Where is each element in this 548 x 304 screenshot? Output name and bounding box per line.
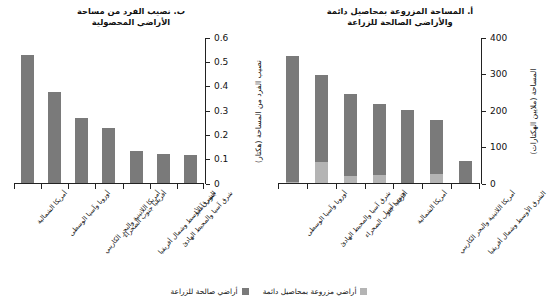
bar-segment-value <box>48 92 61 184</box>
bar-segment-arable <box>401 110 414 183</box>
panel-per-capita: ب. نصيب الفرد من مساحة الأراضي المحصولية <box>0 0 262 304</box>
category-label: أمريكا اللاتينية والبحر الكاريبي <box>457 190 517 255</box>
panel-right-axis-title-text: المساحة (ملايين الهكتارات) <box>529 68 538 154</box>
legend-label: أراضي مزروعة بمحاصيل دائمة <box>263 287 357 296</box>
panel-right-plot-area <box>278 38 480 184</box>
panel-left-title: ب. نصيب الفرد من مساحة الأراضي المحصولية <box>0 6 262 28</box>
y-tick-label: 0.6 <box>214 34 228 43</box>
category-label: أمريكا الشمالية <box>35 190 69 226</box>
bar-slot <box>278 38 307 184</box>
bar-segment-arable <box>373 104 386 175</box>
bar-slot <box>451 38 480 184</box>
bar-segment-value <box>21 55 34 184</box>
bar-left-3[interactable] <box>102 128 115 184</box>
legend-item-permanent[interactable]: أراضي مزروعة بمحاصيل دائمة <box>263 287 368 296</box>
category-label: أفريقيا جنوب الصحراء <box>123 190 169 240</box>
y-tick-label: 300 <box>490 70 507 79</box>
y-tick-label: 0 <box>214 180 220 189</box>
legend-swatch-icon <box>242 288 249 295</box>
panel-right-x-ticks <box>278 184 480 189</box>
bar-right-5[interactable] <box>430 120 443 184</box>
bar-slot <box>177 38 204 184</box>
bar-right-6[interactable] <box>459 161 472 184</box>
bar-right-4[interactable] <box>401 110 414 184</box>
bar-left-1[interactable] <box>48 92 61 184</box>
bar-slot <box>123 38 150 184</box>
bar-segment-value <box>75 118 88 184</box>
bar-right-3[interactable] <box>373 104 386 184</box>
y-tick-label: 0.4 <box>214 82 228 91</box>
y-tick-label: 0.1 <box>214 155 228 164</box>
panel-right-y-ticks: 0 100 200 300 400 <box>482 38 528 184</box>
category-label: أمريكا الشمالية <box>416 190 450 226</box>
panel-right-category-labels: أوروبا وآسيا الوسطى شرق آسيا والمحيط اله… <box>278 190 480 278</box>
bar-left-2[interactable] <box>75 118 88 184</box>
panel-left-plot-area <box>14 38 204 184</box>
chart-legend: أراضي صالحة للزراعة أراضي مزروعة بمحاصيل… <box>0 287 538 296</box>
bar-segment-value <box>184 155 197 184</box>
category-label: أوروبا وآسيا الوسطى <box>68 190 112 238</box>
bar-segment-arable <box>315 75 328 163</box>
panel-left-x-ticks <box>14 184 204 189</box>
panel-right-title: أ. المساحة المزروعة بمحاصيل دائمة والأرا… <box>262 6 538 28</box>
bar-right-0[interactable] <box>286 56 299 184</box>
bar-right-1[interactable] <box>315 75 328 184</box>
panel-left-bars <box>14 38 204 184</box>
panel-left-category-labels: أمريكا الشمالية أوروبا وآسيا الوسطى أمري… <box>14 190 204 278</box>
legend-item-arable[interactable]: أراضي صالحة للزراعة <box>171 287 249 296</box>
bar-slot <box>95 38 122 184</box>
bar-left-6[interactable] <box>184 155 197 184</box>
bar-segment-arable <box>459 161 472 184</box>
bar-segment-arable <box>344 94 357 176</box>
bar-left-5[interactable] <box>157 154 170 184</box>
bar-segment-permanent <box>315 162 328 184</box>
y-tick-label: 0.2 <box>214 131 228 140</box>
bar-segment-value <box>102 128 115 184</box>
bar-slot <box>150 38 177 184</box>
bar-slot <box>393 38 422 184</box>
y-tick-label: 0.5 <box>214 58 228 67</box>
bar-slot <box>336 38 365 184</box>
bar-right-2[interactable] <box>344 94 357 184</box>
bar-left-0[interactable] <box>21 55 34 184</box>
category-label: أوروبا وآسيا الوسطى <box>305 190 349 238</box>
category-label: الشرق الأوسط وشمال أفريقيا <box>487 190 548 256</box>
y-tick-label: 400 <box>490 34 507 43</box>
bar-slot <box>365 38 394 184</box>
panel-area: أ. المساحة المزروعة بمحاصيل دائمة والأرا… <box>262 0 538 304</box>
bar-segment-arable <box>286 56 299 183</box>
bar-segment-value <box>157 154 170 184</box>
bar-segment-value <box>130 151 143 184</box>
y-tick-label: 200 <box>490 107 507 116</box>
legend-label: أراضي صالحة للزراعة <box>171 287 238 296</box>
bar-slot <box>68 38 95 184</box>
bar-segment-arable <box>430 120 443 174</box>
panel-right-axis-title: المساحة (ملايين الهكتارات) <box>528 38 540 184</box>
bar-left-4[interactable] <box>130 151 143 184</box>
panel-left-y-ticks: 0 0.1 0.2 0.3 0.4 0.5 <box>206 38 252 184</box>
bar-slot <box>422 38 451 184</box>
y-tick-label: 100 <box>490 143 507 152</box>
y-tick-label: 0 <box>490 180 496 189</box>
bar-slot <box>307 38 336 184</box>
panel-right-bars <box>278 38 480 184</box>
y-tick-label: 0.3 <box>214 107 228 116</box>
bar-slot <box>41 38 68 184</box>
bar-slot <box>14 38 41 184</box>
legend-swatch-icon <box>360 288 367 295</box>
